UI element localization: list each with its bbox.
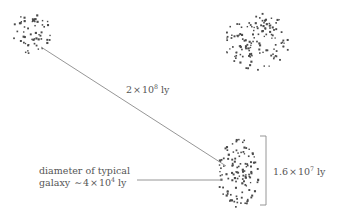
cluster-dot: [265, 34, 267, 36]
cluster-dot: [248, 50, 250, 52]
cluster-dot: [265, 28, 266, 29]
cluster-dot: [281, 31, 283, 33]
cluster-dot: [242, 169, 244, 171]
cluster-dot: [242, 171, 244, 173]
cluster-dot: [229, 26, 231, 28]
cluster-dot: [246, 203, 248, 205]
cluster-dot: [264, 36, 265, 37]
cluster-dot: [27, 44, 29, 46]
cluster-dot: [219, 171, 220, 172]
cluster-dot: [27, 27, 29, 29]
cluster-dot: [240, 46, 242, 48]
cluster-dot: [237, 178, 239, 180]
cluster-dot: [250, 161, 252, 163]
cluster-dot: [269, 25, 271, 27]
cluster-dot: [276, 19, 278, 21]
cluster-dot: [236, 167, 238, 169]
cluster-dot: [20, 40, 22, 42]
cluster-size-times-symbol: ×: [288, 166, 298, 177]
cluster-dot: [234, 177, 236, 179]
cluster-dot: [47, 21, 48, 22]
cluster-dot: [252, 41, 254, 43]
cluster-dot: [241, 191, 243, 193]
cluster-dot: [32, 21, 33, 22]
cluster-dot: [236, 149, 238, 151]
cluster-dot: [251, 42, 253, 44]
cluster-dot: [230, 194, 232, 196]
cluster-dot: [228, 154, 230, 156]
cluster-dot: [35, 18, 37, 20]
cluster-dot: [23, 17, 25, 19]
cluster-size-label: 1.6×107 ly: [273, 166, 325, 178]
cluster-dot: [237, 172, 239, 174]
galaxy-diameter-unit: ly: [118, 177, 126, 188]
cluster-dot: [49, 35, 50, 36]
cluster-dot: [261, 30, 263, 32]
cluster-dot: [17, 31, 19, 33]
cluster-dot: [250, 171, 252, 173]
cluster-dot: [232, 46, 234, 48]
cluster-dot: [240, 54, 242, 56]
galaxy-diameter-base: 10: [99, 177, 111, 188]
cluster-dot: [235, 57, 237, 59]
cluster-dot: [287, 49, 289, 51]
cluster-dot: [255, 22, 257, 24]
cluster-dot: [245, 45, 247, 47]
cluster-dot: [37, 21, 39, 23]
cluster-dot: [287, 39, 289, 41]
cluster-dot: [225, 173, 227, 175]
cluster-dot: [236, 198, 238, 200]
cluster-dot: [249, 41, 251, 43]
cluster-dot: [257, 27, 259, 29]
cluster-dot: [273, 48, 274, 49]
cluster-dot: [223, 165, 225, 167]
cluster-dot: [23, 31, 24, 32]
cluster-dot: [231, 35, 232, 36]
cluster-dot: [264, 20, 266, 22]
cluster-dot: [226, 194, 228, 196]
cluster-dot: [282, 40, 284, 42]
cluster-dot: [232, 163, 234, 165]
cluster-dot: [25, 52, 27, 54]
cluster-dot: [248, 155, 250, 157]
cluster-dot: [259, 17, 261, 19]
cluster-dot: [234, 35, 236, 37]
distance-connector-line: [41, 47, 226, 166]
cluster-dot: [250, 61, 252, 63]
cluster-dot: [227, 190, 229, 192]
cluster-dot: [227, 158, 229, 160]
cluster-dot: [252, 33, 254, 35]
cluster-dot: [238, 23, 240, 25]
cluster-dot: [269, 23, 271, 25]
cluster-dot: [240, 152, 242, 154]
cluster-dot: [239, 155, 241, 157]
cluster-dot: [243, 151, 245, 153]
cluster-dot: [274, 56, 275, 57]
distance-unit: ly: [161, 84, 169, 95]
cluster-dot: [241, 26, 243, 28]
cluster-dot: [244, 202, 246, 204]
cluster-dot: [269, 31, 271, 33]
cluster-dot: [40, 35, 42, 37]
cluster-dot: [21, 21, 22, 22]
cluster-dot: [260, 24, 262, 26]
cluster-dot: [272, 34, 274, 36]
cluster-dot: [245, 67, 247, 69]
cluster-dot: [254, 27, 255, 28]
cluster-dot: [235, 55, 237, 57]
cluster-dot: [46, 39, 48, 41]
cluster-dot: [46, 42, 48, 44]
cluster-dot: [239, 175, 240, 176]
cluster-dot: [223, 157, 225, 159]
cluster-dot: [271, 38, 272, 39]
cluster-dot: [262, 20, 264, 22]
cluster-dot: [269, 27, 271, 29]
cluster-dot: [237, 36, 239, 38]
cluster-dot: [246, 166, 247, 167]
cluster-dot: [272, 26, 274, 28]
distance-times-symbol: ×: [132, 84, 142, 95]
cluster-dot: [33, 39, 35, 41]
cluster-dot: [251, 55, 252, 56]
cluster-dot: [220, 167, 222, 169]
cluster-dot: [237, 152, 238, 153]
